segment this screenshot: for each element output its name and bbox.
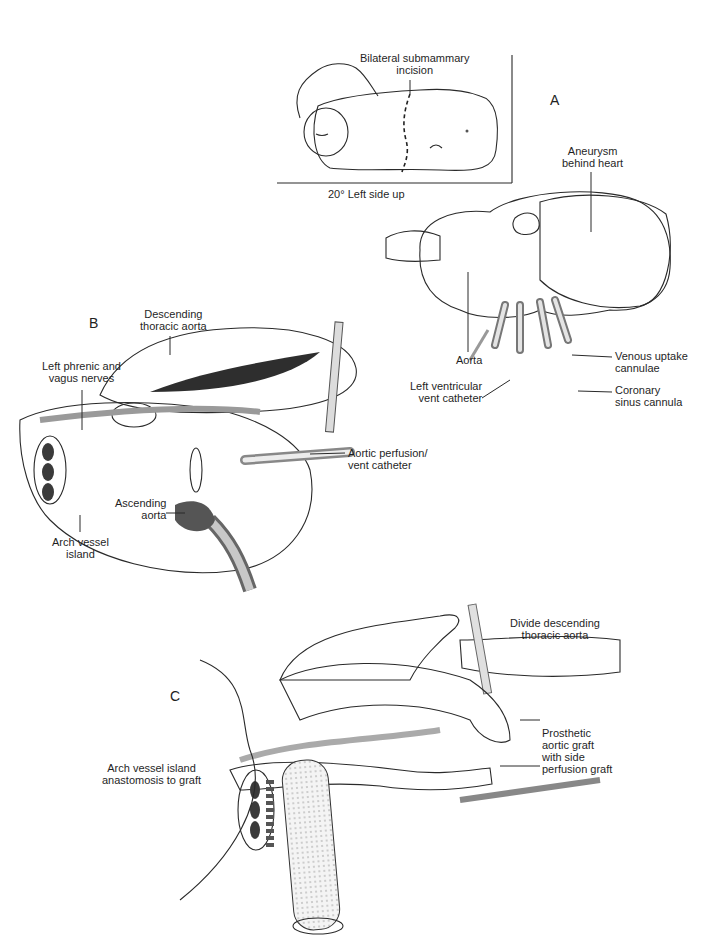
label-arch-vessel-island: Arch vessel island bbox=[52, 536, 109, 560]
panel-letter-a: A bbox=[550, 92, 559, 108]
label-aneurysm: Aneurysm behind heart bbox=[562, 145, 623, 169]
surgical-illustration bbox=[0, 0, 719, 950]
heart-illustration bbox=[386, 192, 670, 360]
label-venous-uptake-cannulae: Venous uptake cannulae bbox=[615, 350, 688, 374]
label-aorta: Aorta bbox=[456, 354, 482, 366]
label-prosthetic-aortic-graft: Prosthetic aortic graft with side perfus… bbox=[542, 727, 612, 775]
label-ascending-aorta: Ascending aorta bbox=[115, 497, 166, 521]
label-aortic-perfusion-vent-catheter: Aortic perfusion/ vent catheter bbox=[348, 447, 427, 471]
panel-letter-b: B bbox=[89, 315, 98, 331]
label-left-phrenic-vagus-nerves: Left phrenic and vagus nerves bbox=[42, 360, 121, 384]
label-descending-thoracic-aorta: Descending thoracic aorta bbox=[140, 308, 207, 332]
label-bilateral-submammary-incision: Bilateral submammary incision bbox=[360, 52, 469, 76]
label-left-ventricular-vent-catheter: Left ventricular vent catheter bbox=[410, 380, 482, 404]
label-coronary-sinus-cannula: Coronary sinus cannula bbox=[615, 384, 682, 408]
inset-caption: 20° Left side up bbox=[328, 188, 405, 200]
label-divide-descending-thoracic-aorta: Divide descending thoracic aorta bbox=[510, 617, 600, 641]
label-arch-vessel-island-anastomosis: Arch vessel island anastomosis to graft bbox=[102, 762, 201, 786]
panel-letter-c: C bbox=[170, 688, 180, 704]
